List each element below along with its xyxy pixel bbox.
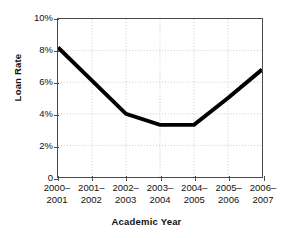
- x-axis-tick-mark: [58, 176, 59, 181]
- x-axis-tick-mark: [92, 176, 93, 181]
- y-axis-tick-mark: [54, 51, 59, 52]
- y-axis-tick-label: 10%: [23, 13, 53, 23]
- x-axis-tick-labels: 2000–20012001–20022002–20032003–20042004…: [57, 182, 263, 212]
- loan-rate-series-line: [58, 47, 262, 124]
- x-axis-tick-mark: [195, 176, 196, 181]
- y-axis-tick-label: 4%: [23, 109, 53, 119]
- plot-area: [57, 18, 263, 178]
- x-axis-title: Academic Year: [0, 216, 293, 227]
- y-axis-tick-mark: [54, 19, 59, 20]
- y-axis-tick-mark: [54, 115, 59, 116]
- y-axis-tick-mark: [54, 83, 59, 84]
- y-axis-tick-mark: [54, 147, 59, 148]
- x-axis-tick-mark: [229, 176, 230, 181]
- plot-svg: [58, 19, 262, 177]
- x-axis-tick-label-line2: 2007: [241, 194, 285, 206]
- y-axis-tick-label: 8%: [23, 45, 53, 55]
- x-axis-tick-label-line1: 2006–: [241, 182, 285, 194]
- y-axis-tick-label: 2%: [23, 141, 53, 151]
- x-axis-tick-mark: [264, 176, 265, 181]
- horizontal-gridlines: [58, 51, 262, 146]
- x-axis-tick-mark: [126, 176, 127, 181]
- y-axis-tick-label: 6%: [23, 77, 53, 87]
- loan-rate-line-chart: Loan Rate 02%4%6%8%10% 2000–20012001–200…: [0, 0, 293, 238]
- x-axis-tick-label: 2006–2007: [241, 182, 285, 205]
- x-axis-tick-mark: [161, 176, 162, 181]
